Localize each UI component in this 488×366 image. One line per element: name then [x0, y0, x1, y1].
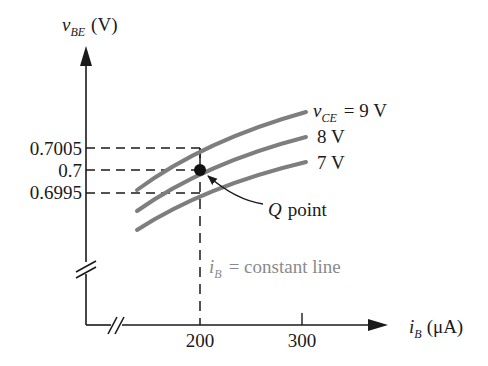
q-point-marker [194, 164, 206, 176]
curve-vce-9v [137, 112, 306, 190]
curve-label-9v: vCE= 9 V [313, 100, 387, 125]
q-point-label: Qpoint [268, 199, 328, 220]
x-tick-label-0: 200 [186, 330, 215, 351]
y-tick-label-2: 0.6995 [30, 182, 82, 203]
ib-constant-line-label: iB= constant line [209, 256, 341, 281]
y-tick-label-0: 0.7005 [30, 138, 82, 159]
y-tick-label-1: 0.7 [58, 160, 82, 181]
x-axis-arrow-icon [368, 319, 388, 331]
x-tick-label-1: 300 [288, 330, 317, 351]
bjt-vbe-ib-diagram: vBE(V) 0.7005 0.7 0.6995 200 300 iB(μA) … [0, 0, 488, 366]
curve-label-8v: 8 V [317, 126, 345, 147]
guide-lines [86, 148, 200, 325]
y-axis-arrow-icon [80, 46, 92, 66]
y-axis-label: vBE(V) [62, 14, 118, 39]
curve-label-7v: 7 V [317, 152, 345, 173]
x-axis [86, 313, 388, 334]
x-axis-label: iB(μA) [409, 316, 463, 341]
